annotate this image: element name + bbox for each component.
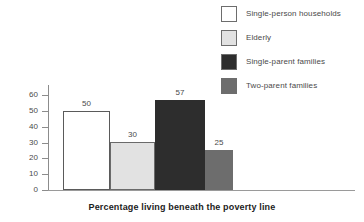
bar-single-person-households <box>63 111 110 190</box>
bar-two-parent-families <box>205 150 233 190</box>
bar-value-label: 30 <box>110 131 155 139</box>
y-tick-mark <box>42 190 48 191</box>
chart-caption: Percentage living beneath the poverty li… <box>0 202 364 212</box>
plot-area: 0 10 20 30 40 50 60 50 30 57 25 <box>0 0 364 200</box>
bar-value-label: 25 <box>203 139 235 147</box>
bar-single-parent-families <box>155 100 205 190</box>
bar-elderly <box>110 142 155 190</box>
bar-chart-figure: Single-person households Elderly Single-… <box>0 0 364 222</box>
bar-value-label: 57 <box>155 89 205 97</box>
bar-value-label: 50 <box>63 100 110 108</box>
x-axis-line <box>48 190 355 191</box>
